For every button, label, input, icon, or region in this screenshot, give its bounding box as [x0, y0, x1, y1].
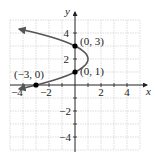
- point-0-3: [72, 43, 77, 48]
- y-tick-label: 4: [64, 27, 70, 39]
- y-tick-label: 2: [64, 53, 70, 65]
- point-label-0-3: (0, 3): [80, 35, 104, 48]
- parabola-graph: x y −4 −2 2 4 4 2 −2 −4 (0, 3) (0, 1) (−…: [0, 0, 156, 158]
- y-tick-label: −2: [59, 105, 71, 117]
- x-tick-label: −2: [40, 86, 52, 98]
- point-0-1: [72, 69, 77, 74]
- y-tick-label: −4: [59, 131, 71, 143]
- point-neg3-0: [33, 82, 38, 87]
- x-tick-label: 2: [98, 86, 104, 98]
- point-label-neg3-0: (−3, 0): [14, 68, 44, 81]
- x-axis-label: x: [145, 85, 151, 97]
- point-label-0-1: (0, 1): [80, 65, 104, 78]
- y-axis-label: y: [64, 5, 70, 17]
- x-tick-label: 4: [124, 86, 130, 98]
